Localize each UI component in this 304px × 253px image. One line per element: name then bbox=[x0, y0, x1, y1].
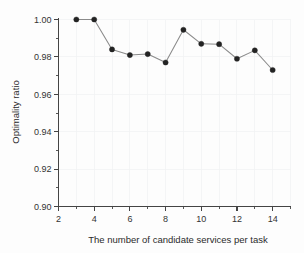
y-axis-title: Optimality ratio bbox=[10, 80, 21, 143]
x-tick-label: 4 bbox=[92, 214, 97, 224]
data-point bbox=[145, 51, 150, 56]
y-tick-label: 0.90 bbox=[34, 202, 52, 212]
data-point bbox=[181, 27, 186, 32]
data-point bbox=[217, 42, 222, 47]
data-point bbox=[199, 41, 204, 46]
x-tick-label: 14 bbox=[268, 214, 278, 224]
data-point bbox=[270, 67, 275, 72]
data-point bbox=[92, 17, 97, 22]
y-tick-label: 0.92 bbox=[34, 164, 52, 174]
y-tick-label: 1.00 bbox=[34, 15, 52, 25]
x-axis-title: The number of candidate services per tas… bbox=[88, 234, 268, 245]
x-tick-label: 10 bbox=[196, 214, 206, 224]
y-tick-label: 0.94 bbox=[34, 127, 52, 137]
y-tick-label: 0.98 bbox=[34, 52, 52, 62]
data-point bbox=[234, 56, 239, 61]
x-tick-label: 2 bbox=[56, 214, 61, 224]
chart-figure: 0.900.920.940.960.981.00 2468101214 The … bbox=[0, 0, 304, 253]
x-tick-label: 6 bbox=[127, 214, 132, 224]
data-point bbox=[163, 60, 168, 65]
optimality-ratio-line-chart: 0.900.920.940.960.981.00 2468101214 The … bbox=[0, 0, 304, 253]
x-tick-label: 12 bbox=[232, 214, 242, 224]
data-point bbox=[109, 47, 114, 52]
data-point bbox=[74, 17, 79, 22]
y-tick-label: 0.96 bbox=[34, 90, 52, 100]
x-tick-label: 8 bbox=[163, 214, 168, 224]
data-point bbox=[127, 52, 132, 57]
data-point bbox=[252, 48, 257, 53]
